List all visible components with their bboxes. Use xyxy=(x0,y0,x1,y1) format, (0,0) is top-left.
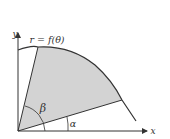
beta-label: β xyxy=(39,102,46,115)
alpha-arc xyxy=(67,117,68,131)
alpha-label: α xyxy=(70,118,77,129)
x-axis-label: x xyxy=(150,126,155,136)
polar-area-diagram: y x r = f(θ) β α xyxy=(0,0,170,139)
y-axis-label: y xyxy=(11,29,18,39)
diagram-canvas: y x r = f(θ) β α xyxy=(0,0,170,139)
curve-label: r = f(θ) xyxy=(29,34,64,45)
